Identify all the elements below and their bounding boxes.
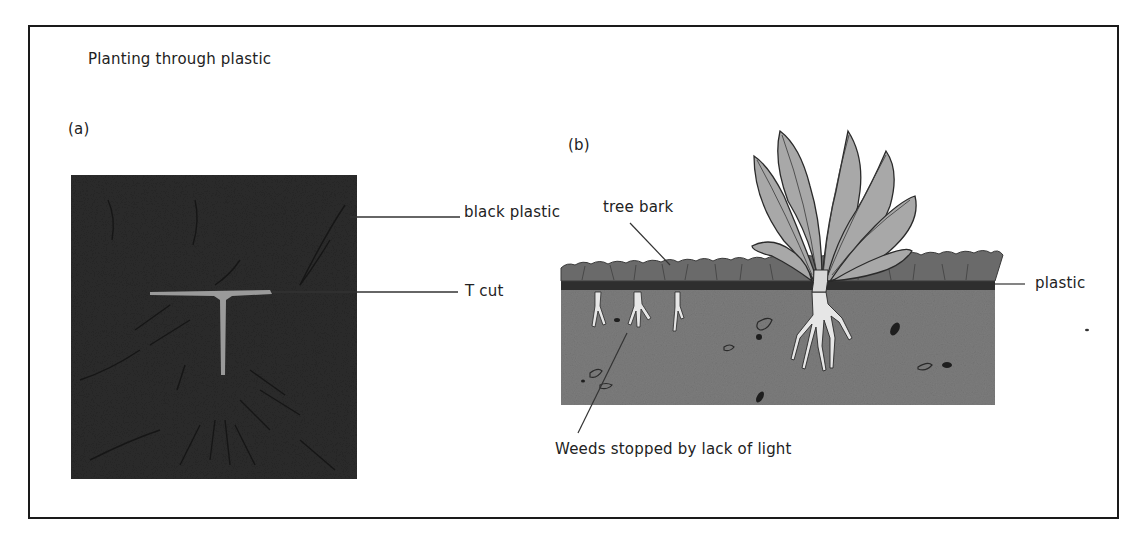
panel-a-black-plastic-square bbox=[71, 175, 357, 479]
plant-stem bbox=[812, 270, 828, 292]
stray-mark bbox=[1085, 329, 1089, 331]
t-cut-label: T cut bbox=[465, 282, 504, 300]
panel-b-soil-cross-section bbox=[561, 251, 1003, 406]
diagram-canvas bbox=[0, 0, 1137, 549]
weeds-label: Weeds stopped by lack of light bbox=[555, 440, 792, 458]
plant-leaves bbox=[752, 131, 916, 281]
tree-bark-leader-line bbox=[630, 223, 670, 265]
tree-bark-label: tree bark bbox=[603, 198, 673, 216]
black-plastic-label: black plastic bbox=[464, 203, 560, 221]
plastic-label: plastic bbox=[1035, 274, 1085, 292]
